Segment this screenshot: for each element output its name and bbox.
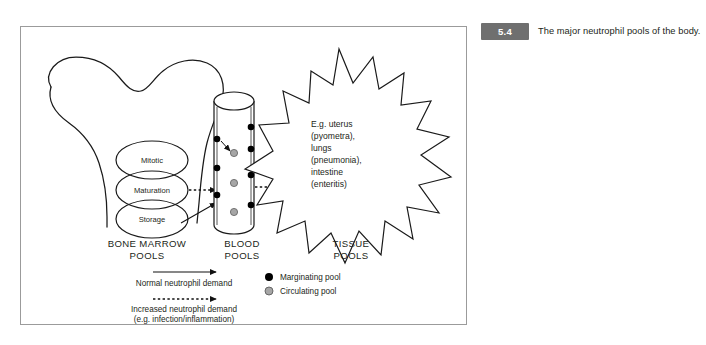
tissue-burst-line: (pneumonia), (311, 155, 362, 165)
label-tissue-pools: TISSUE (333, 238, 370, 249)
clipped-page-text-line (0, 0, 706, 13)
tissue-burst-line: (pyometra), (311, 131, 355, 141)
tissue-burst-line: intestine (311, 167, 343, 177)
marginating-dot (214, 192, 221, 199)
legend-circulating-label: Circulating pool (280, 287, 337, 296)
circulating-dot (230, 149, 237, 156)
marginating-dot (214, 165, 221, 172)
clipped-text (14, 0, 16, 4)
legend-marginating-dot-icon (265, 273, 273, 281)
legend-marginating-label: Marginating pool (280, 273, 341, 282)
tissue-burst-line: (enteritis) (311, 179, 347, 189)
vessel-top-ellipse (214, 92, 254, 110)
compartment-storage-label: Storage (139, 215, 166, 224)
figure-caption: 5.4 The major neutrophil pools of the bo… (481, 23, 703, 40)
circulating-dot (230, 179, 237, 186)
circulating-dot (230, 208, 237, 215)
legend-increased-demand-label: Increased neutrophil demand (131, 305, 238, 314)
label-bone-marrow-pools: BONE MARROW (108, 238, 187, 249)
bone-outline (49, 57, 224, 223)
figure-number-badge: 5.4 (481, 23, 529, 40)
legend-increased-demand-label-2: (e.g. infection/inflammation) (134, 315, 235, 324)
neutrophil-pools-diagram: Mitotic Maturation Storage (21, 27, 466, 324)
label-blood-pools-2: POOLS (225, 250, 260, 261)
marginating-dot (248, 172, 255, 179)
tissue-burst-line: E.g. uterus (311, 119, 353, 129)
compartment-mitotic-label: Mitotic (141, 156, 163, 165)
compartment-maturation-label: Maturation (134, 186, 170, 195)
label-tissue-pools-2: POOLS (334, 250, 369, 261)
figure-frame: Mitotic Maturation Storage (20, 26, 467, 325)
legend-circulating-dot-icon (265, 287, 273, 295)
marginating-dot (248, 124, 255, 131)
marginating-dot (248, 146, 255, 153)
legend-normal-demand-label: Normal neutrophil demand (136, 279, 233, 288)
marginating-dot (248, 202, 255, 209)
label-bone-marrow-pools-2: POOLS (130, 250, 165, 261)
tissue-burst-line: lungs (311, 143, 332, 153)
label-blood-pools: BLOOD (224, 238, 259, 249)
marginating-dot (214, 136, 221, 143)
bone-outline-left-shaft (50, 87, 107, 227)
figure-caption-text: The major neutrophil pools of the body. (538, 23, 701, 37)
